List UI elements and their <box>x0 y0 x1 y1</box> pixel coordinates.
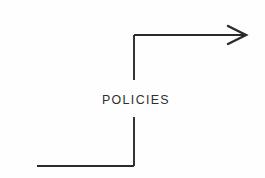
diagram-canvas: POLICIES <box>0 0 265 178</box>
flow-diagram: POLICIES <box>0 0 265 178</box>
policies-label: POLICIES <box>102 93 170 107</box>
